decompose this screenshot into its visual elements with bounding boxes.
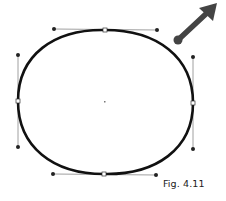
handle-point[interactable] bbox=[16, 145, 20, 149]
bezier-ellipse-diagram bbox=[0, 0, 226, 201]
handle-point[interactable] bbox=[51, 172, 55, 176]
anchor-point-left[interactable] bbox=[16, 99, 20, 103]
anchor-point-top[interactable] bbox=[103, 28, 107, 32]
anchor-point-right[interactable] bbox=[191, 101, 195, 105]
handle-point[interactable] bbox=[52, 27, 56, 31]
handle-point[interactable] bbox=[155, 28, 159, 32]
anchor-point-bottom[interactable] bbox=[102, 172, 106, 176]
figure-caption: Fig. 4.11 bbox=[163, 178, 205, 189]
arrow-icon bbox=[174, 3, 218, 45]
handle-point[interactable] bbox=[191, 147, 195, 151]
handle-point[interactable] bbox=[154, 173, 158, 177]
handle-point[interactable] bbox=[16, 53, 20, 57]
center-point bbox=[104, 101, 106, 103]
handle-point[interactable] bbox=[191, 55, 195, 59]
